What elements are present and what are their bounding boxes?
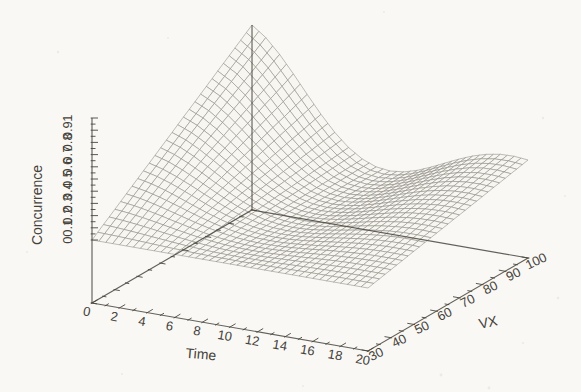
y-tick-label: 90: [503, 264, 523, 284]
x-tick-label: 12: [244, 332, 261, 349]
x-tick-label: 18: [327, 346, 344, 363]
z-axis-title: Concurrence: [29, 165, 45, 245]
x-tick-label: 14: [272, 337, 289, 354]
z-tick-label: 1: [60, 114, 75, 121]
x-tick-label: 4: [137, 313, 147, 329]
y-tick-label: 70: [458, 291, 478, 311]
y-tick-label: 100: [523, 249, 549, 272]
x-tick-label: 0: [82, 304, 92, 320]
x-tick-label: 10: [216, 327, 233, 344]
z-tick-label: 0.9: [60, 121, 75, 139]
y-tick-label: 50: [412, 317, 432, 337]
x-tick-label: 8: [192, 323, 202, 339]
y-tick-label: 60: [435, 304, 455, 324]
x-tick-label: 16: [299, 341, 316, 358]
x-tick-label: 2: [110, 308, 120, 324]
surface-mesh: [92, 25, 528, 288]
y-tick-label: 80: [481, 278, 501, 298]
concurrence-surface-plot: 024681012141618203040506070809010000.10.…: [0, 0, 581, 392]
scanned-figure-page: 024681012141618203040506070809010000.10.…: [0, 0, 581, 392]
x-tick-label: 6: [165, 318, 175, 334]
y-tick-label: 40: [389, 331, 409, 351]
